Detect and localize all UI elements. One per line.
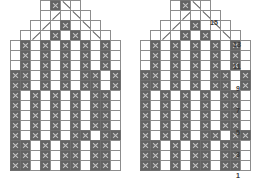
row-number-label: 3: [236, 151, 240, 158]
row-number-label: 1: [236, 172, 240, 179]
chart-cell-empty: [110, 160, 121, 171]
chart-cell-empty: [240, 160, 251, 171]
row-number-label: 9: [236, 85, 240, 92]
row-number-label: 13: [233, 41, 241, 48]
chart-canvas: 15131197531: [0, 0, 264, 181]
row-number-label: 5: [236, 129, 240, 136]
chart-row: [141, 160, 251, 171]
row-number-label: 7: [236, 107, 240, 114]
row-number-label: 11: [233, 63, 241, 70]
chart-row: [11, 160, 121, 171]
row-number-label: 15: [210, 19, 218, 26]
